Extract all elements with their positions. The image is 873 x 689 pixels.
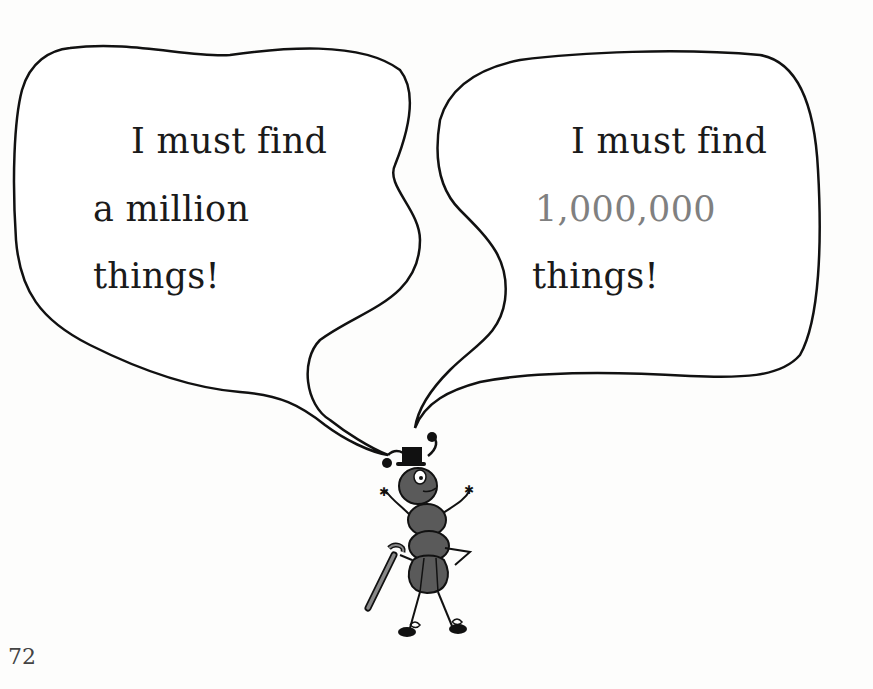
svg-text:✱: ✱: [379, 485, 389, 499]
left-bubble-line-2: a million: [93, 189, 249, 229]
right-bubble-line-3: things!: [532, 256, 659, 296]
illustration: ✱ ✱: [0, 0, 873, 689]
page-number: 72: [8, 644, 36, 669]
ant-character: ✱ ✱: [368, 432, 474, 637]
right-speech-bubble: [415, 51, 820, 428]
left-speech-bubble: [14, 46, 420, 455]
right-bubble-line-1: I must find: [571, 121, 767, 161]
svg-text:✱: ✱: [464, 483, 474, 497]
book-page: ✱ ✱ I must find a millio: [0, 0, 873, 689]
left-bubble-line-3: things!: [93, 256, 220, 296]
left-bubble-line-1: I must find: [131, 121, 327, 161]
right-bubble-number: 1,000,000: [535, 189, 716, 229]
